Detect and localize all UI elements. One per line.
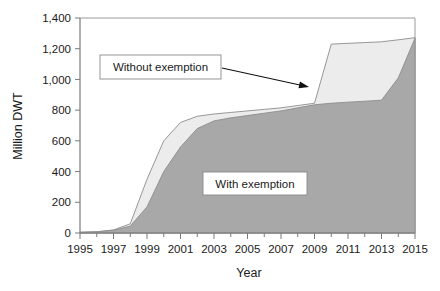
x-tick-label: 2013 [369, 243, 395, 255]
y-tick-label: 400 [52, 166, 71, 178]
plot-area [80, 18, 415, 233]
y-axis-title: Million DWT [11, 92, 25, 160]
with-exemption-annotation: With exemption [203, 172, 307, 195]
y-tick-label: 1,000 [42, 74, 71, 86]
without-exemption-label: Without exemption [113, 61, 208, 73]
y-tick-label: 1,200 [42, 43, 71, 55]
x-tick-label: 1995 [67, 243, 93, 255]
x-axis-title: Year [236, 266, 261, 280]
chart-figure: 02004006008001,0001,2001,400 19951997199… [0, 0, 440, 291]
y-tick-label: 600 [52, 135, 71, 147]
y-tick-label: 1,400 [42, 12, 71, 24]
x-tick-label: 2001 [168, 243, 194, 255]
chart-svg: 02004006008001,0001,2001,400 19951997199… [0, 0, 440, 291]
x-tick-label: 1999 [134, 243, 160, 255]
without-exemption-annotation: Without exemption [100, 55, 221, 79]
x-tick-label: 1997 [101, 243, 127, 255]
with-exemption-label: With exemption [215, 178, 294, 190]
y-tick-label: 200 [52, 196, 71, 208]
x-tick-label: 2009 [302, 243, 328, 255]
x-tick-label: 2011 [336, 243, 361, 255]
x-tick-label: 2005 [235, 243, 261, 255]
y-tick-label: 0 [65, 227, 71, 239]
x-tick-label: 2007 [268, 243, 294, 255]
x-tick-label: 2003 [201, 243, 227, 255]
y-tick-label: 800 [52, 104, 71, 116]
x-tick-label: 2015 [402, 243, 428, 255]
